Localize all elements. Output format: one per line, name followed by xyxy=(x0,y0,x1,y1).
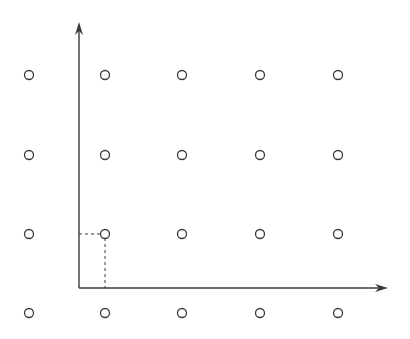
lattice-point xyxy=(25,230,34,239)
lattice-point xyxy=(101,71,110,80)
lattice-point xyxy=(334,71,343,80)
lattice-point xyxy=(334,230,343,239)
lattice-diagram xyxy=(0,0,410,339)
lattice-point xyxy=(101,230,110,239)
lattice-point xyxy=(178,230,187,239)
lattice-point xyxy=(101,309,110,318)
lattice-point xyxy=(25,309,34,318)
lattice-point xyxy=(178,309,187,318)
lattice-point xyxy=(256,309,265,318)
lattice-point xyxy=(334,151,343,160)
lattice-point xyxy=(25,151,34,160)
lattice-point xyxy=(25,71,34,80)
lattice-point xyxy=(256,151,265,160)
lattice-point xyxy=(178,151,187,160)
lattice-point xyxy=(101,151,110,160)
lattice-points xyxy=(25,71,343,318)
lattice-point xyxy=(334,309,343,318)
lattice-point xyxy=(256,230,265,239)
lattice-point xyxy=(178,71,187,80)
lattice-point xyxy=(256,71,265,80)
